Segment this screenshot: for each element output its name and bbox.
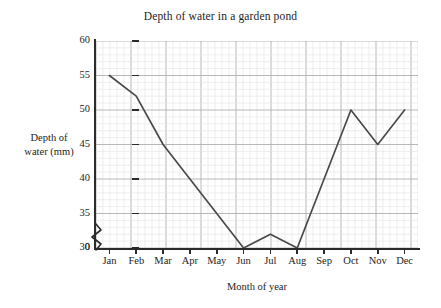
x-tick-mark: [135, 248, 137, 254]
data-line-series: [96, 41, 418, 248]
x-tick-mark: [243, 248, 245, 254]
x-tick-mark: [296, 248, 298, 254]
x-tick-mark: [350, 248, 352, 254]
x-tick-mark: [377, 248, 379, 254]
x-tick-mark: [109, 248, 111, 254]
x-axis-title: Month of year: [96, 281, 418, 292]
y-axis-title-line-2: water (mm): [6, 145, 92, 159]
x-tick-mark: [216, 248, 218, 254]
x-tick-mark: [162, 248, 164, 254]
y-axis-title: Depth of water (mm): [6, 131, 92, 159]
x-tick-label: Dec: [382, 255, 428, 266]
x-tick-mark: [404, 248, 406, 254]
y-axis-title-line-1: Depth of: [6, 131, 92, 145]
chart-canvas: Depth of water in a garden pond 03035404…: [0, 0, 441, 308]
x-tick-mark: [323, 248, 325, 254]
x-tick-mark: [189, 248, 191, 254]
x-tick-mark: [270, 248, 272, 254]
